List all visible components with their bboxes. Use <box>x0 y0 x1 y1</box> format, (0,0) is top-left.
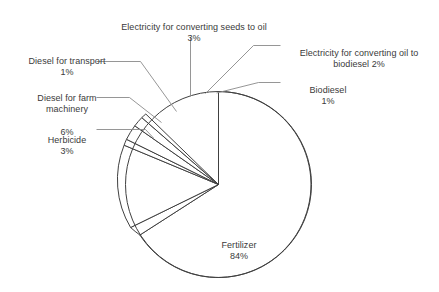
slice-label-fertilizer: Fertilizer 84% <box>196 228 282 274</box>
slice-label-text: Diesel for farm <box>37 93 96 103</box>
slice-label-text: Electricity for converting oil to <box>300 48 419 58</box>
slice-label-text: Herbicide <box>48 135 86 145</box>
slice-value-text: 1% <box>283 96 373 108</box>
slice-value-text: biodiesel 2% <box>283 59 435 71</box>
slice-label-text: Diesel for transport <box>28 56 105 66</box>
slice-label-biodiesel: Biodiesel 1% <box>283 73 373 119</box>
slice-label-text: Biodiesel <box>310 85 347 95</box>
slice-value-text: 3% <box>104 33 284 45</box>
slice-label-text: Fertilizer <box>221 240 256 250</box>
slice-label-text-cont: machinery <box>8 104 126 116</box>
pie-chart-figure: Electricity for converting seeds to oil … <box>0 0 439 292</box>
slice-value-text: 1% <box>8 67 126 79</box>
slice-value-text: 84% <box>196 251 282 263</box>
slice-label-text: Electricity for converting seeds to oil <box>121 22 267 32</box>
slice-label-electricity-seeds-to-oil: Electricity for converting seeds to oil … <box>104 10 284 56</box>
slice-value-text: 3% <box>8 146 126 158</box>
slice-label-herbicide: Herbicide 3% <box>8 123 126 169</box>
